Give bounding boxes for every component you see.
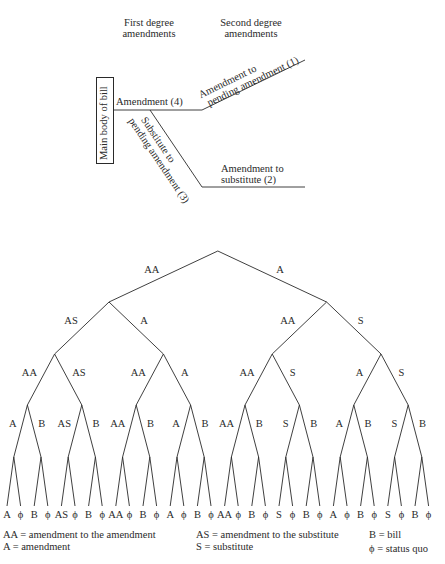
leaf-label: A	[166, 509, 174, 520]
tree-edge	[34, 457, 41, 506]
legend-as: AS = amendment to the substitute	[196, 529, 339, 541]
tree-edge	[340, 457, 347, 506]
edge-label: AA	[131, 367, 146, 378]
edge-label: S	[283, 418, 289, 429]
tree-edge	[286, 457, 293, 506]
tree-edge	[41, 457, 48, 506]
edge-label: AA	[280, 315, 295, 326]
edge-label: S	[358, 315, 364, 326]
tree-edge	[204, 457, 211, 506]
tree-edge	[170, 457, 177, 506]
tree-edge	[340, 405, 354, 457]
legend-s: S = substitute	[196, 541, 339, 553]
leaf-label: B	[85, 509, 92, 520]
legend-aa: AA = amendment to the amendment	[3, 529, 156, 541]
tree-edge	[136, 354, 163, 405]
tree-edge	[68, 405, 82, 457]
tree-edge	[272, 302, 326, 354]
edge-label: A	[335, 418, 343, 429]
tree-edge	[395, 457, 402, 506]
leaf-status-quo: ϕ	[18, 509, 24, 520]
tree-edge	[55, 354, 82, 405]
edge-label: B	[147, 418, 154, 429]
tree-edge	[299, 405, 313, 457]
leaf-status-quo: ϕ	[235, 509, 241, 520]
leaf-status-quo: ϕ	[127, 509, 133, 520]
tree-edge	[333, 457, 340, 506]
tree-edge	[225, 457, 232, 506]
tree-edge	[95, 457, 102, 506]
leaf-status-quo: ϕ	[154, 509, 160, 520]
leaf-label: S	[276, 509, 282, 520]
tree-edge	[197, 457, 204, 506]
tree-edge	[27, 405, 41, 457]
leaf-label: AA	[108, 509, 123, 520]
edge-label: B	[38, 418, 45, 429]
tree-edge	[408, 405, 422, 457]
edge-label: A	[172, 418, 180, 429]
tree-edge	[27, 354, 54, 405]
leaf-label: B	[194, 509, 201, 520]
edge-label: A	[181, 367, 189, 378]
edge-label: AA	[22, 367, 37, 378]
tree-edge	[422, 457, 429, 506]
leaf-status-quo: ϕ	[181, 509, 187, 520]
tree-edge	[354, 354, 381, 405]
tree-edge	[143, 457, 150, 506]
tree-edge	[327, 302, 381, 354]
legend-col-3: B = bill ϕ = status quo	[369, 529, 428, 555]
tree-edge	[14, 405, 28, 457]
tree-edge	[245, 354, 272, 405]
leaf-status-quo: ϕ	[208, 509, 214, 520]
edge-label: S	[399, 367, 405, 378]
edge-label: A	[140, 315, 148, 326]
leaf-label: B	[411, 509, 418, 520]
leaf-status-quo: ϕ	[344, 509, 350, 520]
tree-edge	[191, 405, 205, 457]
tree-edge	[82, 405, 96, 457]
edge-label: AA	[239, 367, 254, 378]
tree-edge	[7, 457, 14, 506]
tree-edge	[259, 457, 266, 506]
tree-edge	[272, 354, 299, 405]
edge-label: A	[9, 418, 17, 429]
leaf-status-quo: ϕ	[290, 509, 296, 520]
leaf-label: AA	[217, 509, 232, 520]
edge-label: AS	[58, 418, 71, 429]
tree-edge	[123, 405, 137, 457]
edge-label: AA	[110, 418, 125, 429]
leaf-label: B	[248, 509, 255, 520]
edge-label: AS	[64, 315, 77, 326]
edge-label: B	[419, 418, 426, 429]
tree-edge	[361, 457, 368, 506]
tree-edge	[231, 457, 238, 506]
tree-edge	[177, 457, 184, 506]
tree-edge	[367, 457, 374, 506]
edge-label: B	[256, 418, 263, 429]
leaf-label: B	[139, 509, 146, 520]
edge-label: S	[290, 367, 296, 378]
edge-label: A	[356, 367, 364, 378]
tree-edge	[252, 457, 259, 506]
tree-edge	[14, 457, 21, 506]
tree-edge	[354, 405, 368, 457]
tree-edge	[61, 457, 68, 506]
edge-label: B	[93, 418, 100, 429]
tree-edge	[123, 457, 130, 506]
tree-edge	[163, 354, 190, 405]
edge-label: S	[392, 418, 398, 429]
leaf-status-quo: ϕ	[317, 509, 323, 520]
edge-label: B	[310, 418, 317, 429]
tree-edge	[231, 405, 245, 457]
leaf-label: B	[31, 509, 38, 520]
tree-edge	[109, 251, 218, 302]
edge-label: AA	[144, 264, 159, 275]
edge-label: B	[365, 418, 372, 429]
legend-col-1: AA = amendment to the amendment A = amen…	[3, 529, 156, 553]
leaf-status-quo: ϕ	[99, 509, 105, 520]
tree-edge	[388, 457, 395, 506]
tree-edge	[395, 405, 409, 457]
tree-edge	[218, 251, 327, 302]
edge-label: AA	[219, 418, 234, 429]
edge-label: B	[201, 418, 208, 429]
